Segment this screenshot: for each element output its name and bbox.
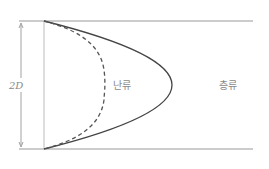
turbulent-profile-curve <box>44 21 105 149</box>
pipe-flow-diagram: 2D 난류 층류 <box>0 0 269 169</box>
laminar-profile-curve <box>44 21 172 149</box>
laminar-label: 층류 <box>219 80 237 91</box>
turbulent-label: 난류 <box>113 80 131 91</box>
diameter-label: 2D <box>8 80 23 91</box>
